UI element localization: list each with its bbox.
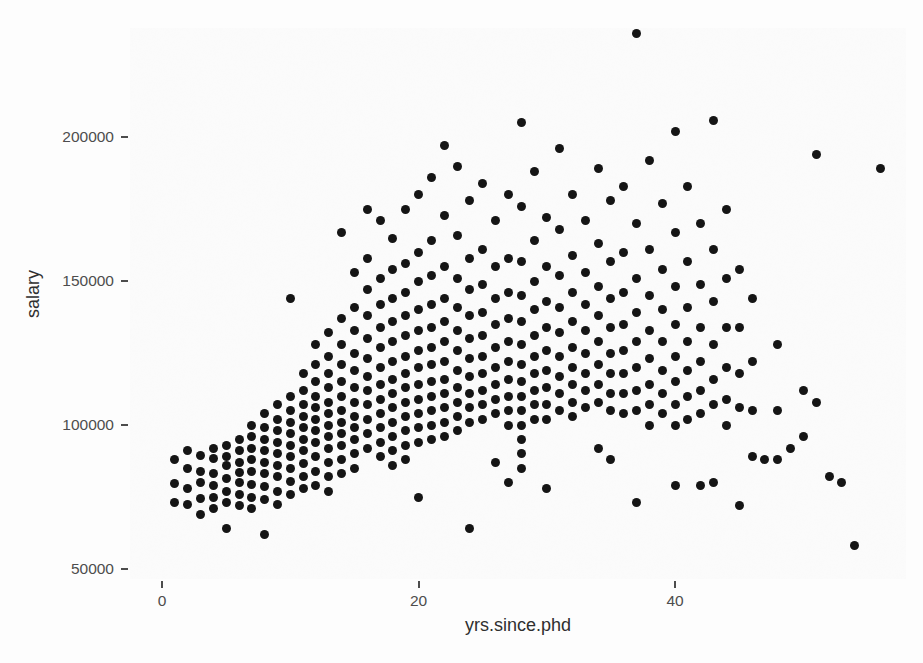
data-point [299,446,308,455]
data-point [658,409,667,418]
data-point [619,369,628,378]
data-point [414,395,423,404]
data-point [530,415,539,424]
data-point [671,352,680,361]
data-point [440,211,449,220]
data-point [478,369,487,378]
data-point [812,150,821,159]
data-point [760,455,769,464]
data-point [247,480,256,489]
data-point [401,455,410,464]
data-point [350,383,359,392]
data-point [504,337,513,346]
data-point [222,474,231,483]
data-point [478,415,487,424]
data-point [440,294,449,303]
data-point [440,403,449,412]
data-point [658,265,667,274]
data-point [388,265,397,274]
data-point [453,426,462,435]
data-point [478,280,487,289]
data-point [350,398,359,407]
data-point [530,369,539,378]
data-point [401,288,410,297]
data-point [825,472,834,481]
data-point [247,455,256,464]
data-point [581,300,590,309]
data-point [504,254,513,263]
data-point [530,236,539,245]
data-point [453,274,462,283]
data-point [401,331,410,340]
data-point [363,334,372,343]
data-point [260,458,269,467]
data-point [183,464,192,473]
data-point [748,294,757,303]
data-point [324,409,333,418]
data-point [273,438,282,447]
data-point [427,377,436,386]
data-point [555,144,564,153]
data-point [170,479,179,488]
data-point [555,225,564,234]
data-point [376,363,385,372]
data-point [671,127,680,136]
data-point [388,294,397,303]
data-point [170,498,179,507]
data-point [812,398,821,407]
data-point [504,357,513,366]
data-point [619,182,628,191]
data-point [619,346,628,355]
data-point [632,386,641,395]
x-axis-tick-mark [674,581,676,588]
data-point [594,360,603,369]
data-point [465,196,474,205]
data-point [414,248,423,257]
data-point [299,459,308,468]
data-point [735,369,744,378]
data-point [671,400,680,409]
data-point [337,469,346,478]
data-point [337,340,346,349]
data-point [645,354,654,363]
data-point [530,305,539,314]
data-point [709,478,718,487]
data-point [414,380,423,389]
data-point [427,360,436,369]
data-point [453,366,462,375]
data-point [671,481,680,490]
data-point [632,406,641,415]
data-point [555,372,564,381]
data-point [401,441,410,450]
data-point [401,426,410,435]
data-point [440,432,449,441]
data-point [799,386,808,395]
data-point [517,392,526,401]
data-point [696,280,705,289]
data-point [517,360,526,369]
data-point [286,452,295,461]
y-axis-title: salary [24,239,42,349]
data-point [209,504,218,513]
data-point [440,141,449,150]
data-point [273,426,282,435]
data-point [324,328,333,337]
data-point [517,464,526,473]
data-point [324,472,333,481]
data-point [427,421,436,430]
data-point [517,291,526,300]
data-point [324,458,333,467]
data-point [414,438,423,447]
data-point [542,297,551,306]
data-point [427,271,436,280]
data-point [683,337,692,346]
data-point [183,500,192,509]
data-point [427,406,436,415]
data-point [542,346,551,355]
data-point [376,216,385,225]
data-point [324,369,333,378]
data-point [606,196,615,205]
data-point [594,239,603,248]
x-axis-tick-label: 0 [132,593,192,609]
data-point [568,317,577,326]
